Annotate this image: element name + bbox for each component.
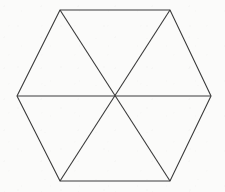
hexagon-figure bbox=[0, 0, 225, 192]
figure-canvas bbox=[0, 0, 225, 192]
